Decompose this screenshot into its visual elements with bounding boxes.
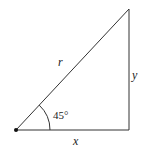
- label-y: y: [131, 68, 138, 82]
- hypotenuse-r: [16, 9, 129, 130]
- label-r: r: [58, 55, 63, 69]
- angle-arc: [39, 105, 50, 130]
- label-x: x: [72, 134, 79, 148]
- label-angle: 45°: [53, 109, 68, 121]
- origin-point: [14, 128, 18, 132]
- right-triangle-diagram: r y x 45°: [0, 0, 147, 150]
